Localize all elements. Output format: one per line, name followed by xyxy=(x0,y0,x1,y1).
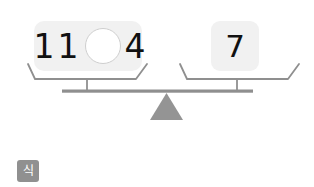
worksheet-canvas: 11 4 7 식 xyxy=(0,0,314,187)
left-number-card[interactable]: 11 4 xyxy=(34,21,142,71)
left-expression: 11 4 xyxy=(33,21,143,71)
right-operand-value: 4 xyxy=(125,30,147,63)
triangle-fulcrum-icon xyxy=(150,93,183,120)
balance-beam-icon xyxy=(62,90,253,93)
equation-icon: 식 xyxy=(23,165,34,177)
right-number-card[interactable]: 7 xyxy=(211,21,259,71)
result-value: 7 xyxy=(225,31,245,62)
left-operand-value: 11 xyxy=(34,30,82,63)
equation-tool-button[interactable]: 식 xyxy=(17,160,39,182)
empty-circle-icon[interactable] xyxy=(85,28,121,64)
